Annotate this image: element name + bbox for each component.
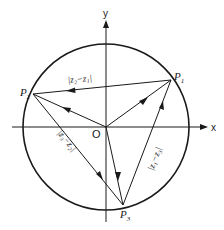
point-p2-label: P2 <box>19 86 31 101</box>
edge-label-z2-z1: |z₂−z₁| <box>67 73 92 85</box>
edge-p2-p3 <box>33 94 123 205</box>
point-p3-label: P3 <box>119 208 131 223</box>
vector-o-p1 <box>106 80 171 127</box>
complex-plane-diagram: y x O P1 P2 P3 |z₂−z₁| |z₃−z₂| |z₁−z₃| <box>0 0 224 230</box>
edge-label-z3-z2: |z₃−z₂| <box>55 128 78 153</box>
edge-label-z1-z3: |z₁−z₃| <box>146 145 164 171</box>
arrowhead-icon <box>139 97 148 105</box>
origin-label: O <box>92 128 101 140</box>
x-axis-label: x <box>211 122 216 133</box>
x-axis-arrow-icon <box>200 124 208 130</box>
y-axis-label: y <box>103 8 108 19</box>
edge-p1-p2 <box>33 80 171 94</box>
y-axis-arrow-icon <box>103 20 109 28</box>
arrowhead-icon <box>62 107 71 113</box>
point-p1-label: P1 <box>173 70 184 85</box>
vector-o-p3 <box>106 127 123 205</box>
arrowhead-icon <box>115 172 121 181</box>
